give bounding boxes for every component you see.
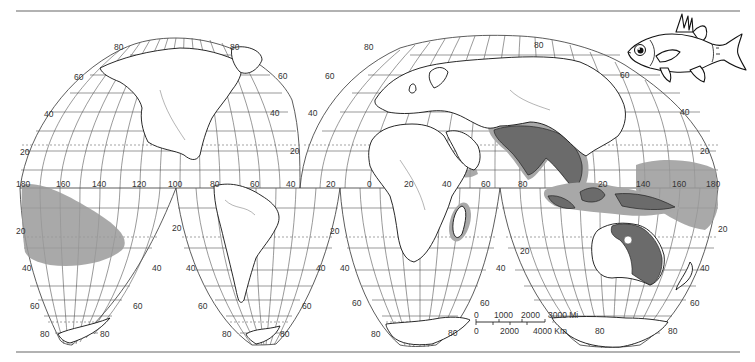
svg-text:60: 60 [74,72,84,82]
svg-text:120: 120 [132,179,146,189]
antarctica-australasia [552,317,668,348]
svg-text:60: 60 [480,298,490,308]
svg-text:80: 80 [595,326,605,336]
svg-text:20: 20 [598,179,608,189]
svg-text:40: 40 [44,109,54,119]
svg-text:80: 80 [114,42,124,52]
svg-text:40: 40 [186,263,196,273]
fish-illustration [628,14,746,82]
svg-text:60: 60 [198,301,208,311]
svg-text:60: 60 [690,298,700,308]
svg-text:80: 80 [100,329,110,339]
scale-km-2000: 2000 [500,326,519,336]
scale-miles-2000: 2000 [521,310,540,320]
scale-km-0: 0 [474,326,479,336]
scale-miles-1000: 1000 [494,310,513,320]
svg-text:40: 40 [152,263,162,273]
svg-text:80: 80 [210,179,220,189]
svg-text:160: 160 [672,179,686,189]
svg-text:20: 20 [718,224,728,234]
svg-text:140: 140 [92,179,106,189]
svg-text:60: 60 [481,179,491,189]
svg-text:140: 140 [636,179,650,189]
svg-text:60: 60 [250,179,260,189]
lake-eyre [624,236,632,244]
svg-text:40: 40 [308,108,318,118]
svg-text:20: 20 [16,226,26,236]
svg-text:20: 20 [330,226,340,236]
svg-text:20: 20 [700,146,710,156]
svg-text:80: 80 [364,42,374,52]
svg-text:0: 0 [367,179,372,189]
svg-text:40: 40 [22,263,32,273]
british-isles [409,84,416,93]
svg-text:40: 40 [680,107,690,117]
svg-text:60: 60 [325,71,335,81]
svg-text:20: 20 [404,179,414,189]
svg-text:80: 80 [280,329,290,339]
svg-text:80: 80 [371,329,381,339]
svg-text:40: 40 [340,263,350,273]
north-america [100,48,242,160]
svg-text:180: 180 [706,179,720,189]
svg-text:20: 20 [20,147,30,157]
svg-text:80: 80 [448,328,458,338]
svg-text:80: 80 [518,179,528,189]
svg-text:60: 60 [302,301,312,311]
svg-text:80: 80 [222,329,232,339]
svg-text:20: 20 [520,246,530,256]
svg-text:60: 60 [278,71,288,81]
svg-text:60: 60 [620,70,630,80]
svg-text:180: 180 [16,179,30,189]
svg-text:100: 100 [168,179,182,189]
svg-text:20: 20 [326,179,336,189]
svg-text:40: 40 [270,108,280,118]
scale-miles-3000: 3000 Mi [548,310,578,320]
svg-text:20: 20 [172,223,182,233]
svg-text:20: 20 [290,146,300,156]
svg-text:80: 80 [534,40,544,50]
svg-text:60: 60 [133,301,143,311]
svg-text:40: 40 [496,263,506,273]
svg-text:40: 40 [316,263,326,273]
svg-text:40: 40 [286,179,296,189]
scale-miles-0: 0 [474,310,479,320]
svg-text:60: 60 [30,301,40,311]
svg-text:80: 80 [668,326,678,336]
scale-km-4000: 4000 Km [533,326,567,336]
svg-text:40: 40 [700,263,710,273]
world-distribution-map: 80 80 60 60 40 40 20 20 80 80 60 60 40 4… [0,0,755,362]
central-pacific-range [22,184,125,266]
svg-text:60: 60 [352,298,362,308]
south-america [214,184,279,302]
svg-text:160: 160 [56,179,70,189]
svg-text:80: 80 [230,42,240,52]
svg-text:40: 40 [442,179,452,189]
antarctica-south-america [246,326,280,344]
svg-text:80: 80 [40,329,50,339]
